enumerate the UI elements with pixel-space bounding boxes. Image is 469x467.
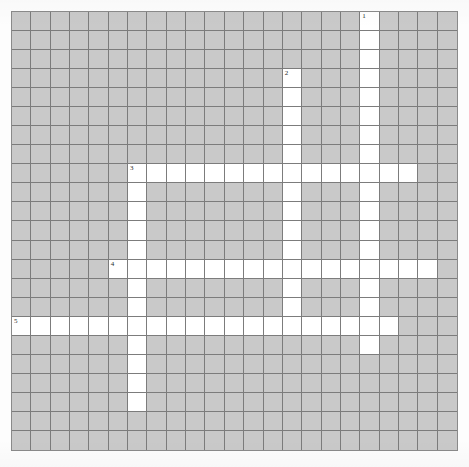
- crossword-cell-open[interactable]: [283, 126, 302, 145]
- crossword-cell-open[interactable]: [360, 107, 379, 126]
- crossword-cell-open[interactable]: [360, 69, 379, 88]
- crossword-cell-open[interactable]: [283, 241, 302, 260]
- clue-number: 4: [111, 260, 115, 269]
- crossword-cell-open[interactable]: [128, 183, 147, 202]
- crossword-cell-open[interactable]: [341, 317, 360, 336]
- crossword-cell-open[interactable]: [264, 260, 283, 279]
- crossword-cell-open[interactable]: [283, 107, 302, 126]
- crossword-cell-open[interactable]: [244, 164, 263, 183]
- crossword-cell-block: [438, 145, 457, 164]
- crossword-cell-open[interactable]: 4: [109, 260, 128, 279]
- crossword-cell-open[interactable]: [225, 317, 244, 336]
- crossword-cell-open[interactable]: [380, 317, 399, 336]
- crossword-cell-open[interactable]: 2: [283, 69, 302, 88]
- crossword-cell-open[interactable]: [283, 260, 302, 279]
- crossword-cell-open[interactable]: [399, 164, 418, 183]
- crossword-cell-open[interactable]: [225, 260, 244, 279]
- crossword-cell-open[interactable]: [283, 298, 302, 317]
- crossword-cell-open[interactable]: [244, 317, 263, 336]
- crossword-cell-open[interactable]: [380, 260, 399, 279]
- crossword-cell-block: [341, 202, 360, 221]
- crossword-cell-open[interactable]: [302, 164, 321, 183]
- crossword-cell-open[interactable]: [205, 317, 224, 336]
- crossword-cell-open[interactable]: [128, 279, 147, 298]
- crossword-cell-open[interactable]: [128, 298, 147, 317]
- crossword-cell-open[interactable]: [128, 336, 147, 355]
- crossword-cell-open[interactable]: [128, 317, 147, 336]
- crossword-cell-open[interactable]: [302, 260, 321, 279]
- crossword-cell-open[interactable]: [128, 241, 147, 260]
- crossword-grid[interactable]: 12345: [12, 12, 457, 450]
- crossword-cell-open[interactable]: [283, 183, 302, 202]
- crossword-cell-open[interactable]: [360, 336, 379, 355]
- clue-number: 3: [130, 164, 134, 173]
- crossword-cell-open[interactable]: [186, 164, 205, 183]
- crossword-cell-open[interactable]: 3: [128, 164, 147, 183]
- crossword-cell-open[interactable]: [360, 202, 379, 221]
- crossword-cell-block: [167, 107, 186, 126]
- crossword-cell-open[interactable]: [341, 164, 360, 183]
- crossword-cell-open[interactable]: [70, 317, 89, 336]
- crossword-cell-open[interactable]: [380, 164, 399, 183]
- crossword-cell-open[interactable]: [205, 260, 224, 279]
- crossword-cell-block: [418, 202, 437, 221]
- crossword-cell-open[interactable]: [360, 88, 379, 107]
- crossword-cell-open[interactable]: [264, 317, 283, 336]
- crossword-cell-open[interactable]: [283, 145, 302, 164]
- crossword-cell-open[interactable]: [128, 202, 147, 221]
- crossword-cell-block: [418, 298, 437, 317]
- crossword-cell-open[interactable]: [31, 317, 50, 336]
- crossword-cell-open[interactable]: [360, 221, 379, 240]
- crossword-cell-open[interactable]: [360, 126, 379, 145]
- crossword-cell-open[interactable]: [186, 317, 205, 336]
- crossword-cell-open[interactable]: [147, 260, 166, 279]
- crossword-cell-block: [12, 69, 31, 88]
- crossword-cell-open[interactable]: [167, 260, 186, 279]
- crossword-cell-open[interactable]: [360, 145, 379, 164]
- crossword-cell-open[interactable]: [283, 279, 302, 298]
- crossword-cell-open[interactable]: [283, 221, 302, 240]
- crossword-cell-open[interactable]: [360, 298, 379, 317]
- crossword-cell-open[interactable]: [89, 317, 108, 336]
- crossword-cell-open[interactable]: [205, 164, 224, 183]
- crossword-cell-open[interactable]: [147, 164, 166, 183]
- crossword-cell-open[interactable]: [283, 164, 302, 183]
- crossword-cell-open[interactable]: [128, 221, 147, 240]
- crossword-cell-open[interactable]: [360, 31, 379, 50]
- crossword-cell-open[interactable]: [322, 260, 341, 279]
- crossword-cell-open[interactable]: [418, 260, 437, 279]
- crossword-cell-open[interactable]: [360, 50, 379, 69]
- crossword-cell-open[interactable]: [322, 317, 341, 336]
- crossword-cell-open[interactable]: [302, 317, 321, 336]
- crossword-cell-open[interactable]: [341, 260, 360, 279]
- crossword-cell-open[interactable]: 1: [360, 12, 379, 31]
- crossword-cell-open[interactable]: [264, 164, 283, 183]
- crossword-cell-open[interactable]: 5: [12, 317, 31, 336]
- crossword-cell-open[interactable]: [360, 260, 379, 279]
- crossword-cell-open[interactable]: [128, 374, 147, 393]
- crossword-cell-open[interactable]: [128, 260, 147, 279]
- crossword-cell-open[interactable]: [128, 355, 147, 374]
- crossword-cell-block: [264, 431, 283, 450]
- crossword-cell-open[interactable]: [283, 317, 302, 336]
- crossword-cell-open[interactable]: [225, 164, 244, 183]
- crossword-cell-open[interactable]: [186, 260, 205, 279]
- crossword-cell-open[interactable]: [128, 393, 147, 412]
- crossword-cell-block: [399, 374, 418, 393]
- crossword-cell-open[interactable]: [360, 241, 379, 260]
- crossword-cell-open[interactable]: [322, 164, 341, 183]
- crossword-cell-block: [70, 279, 89, 298]
- crossword-cell-open[interactable]: [244, 260, 263, 279]
- crossword-cell-open[interactable]: [167, 317, 186, 336]
- crossword-cell-open[interactable]: [147, 317, 166, 336]
- crossword-cell-open[interactable]: [283, 88, 302, 107]
- crossword-cell-open[interactable]: [360, 183, 379, 202]
- crossword-cell-open[interactable]: [167, 164, 186, 183]
- crossword-cell-open[interactable]: [360, 164, 379, 183]
- crossword-cell-open[interactable]: [360, 279, 379, 298]
- crossword-cell-open[interactable]: [399, 260, 418, 279]
- crossword-cell-open[interactable]: [283, 202, 302, 221]
- crossword-cell-open[interactable]: [360, 317, 379, 336]
- crossword-cell-open[interactable]: [51, 317, 70, 336]
- crossword-cell-open[interactable]: [109, 317, 128, 336]
